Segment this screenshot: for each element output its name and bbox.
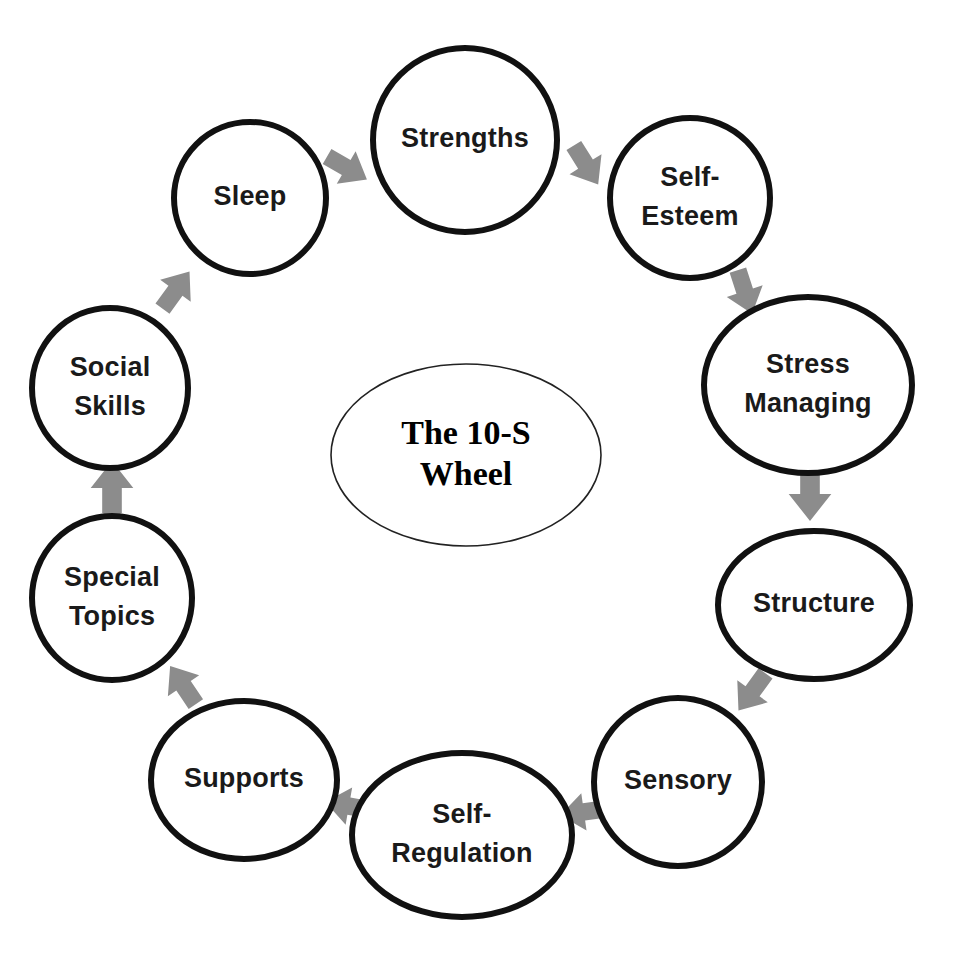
wheel-node-social-skills[interactable]: SocialSkills (32, 308, 188, 468)
node-label-strengths-line1: Strengths (401, 123, 529, 153)
wheel-node-self-esteem[interactable]: Self-Esteem (610, 118, 770, 278)
node-label-supports-line1: Supports (184, 763, 304, 793)
node-label-special-topics-line1: Special (64, 562, 160, 592)
node-shape-self-regulation (352, 753, 572, 917)
wheel-node-structure[interactable]: Structure (718, 531, 910, 679)
node-label-social-skills-line1: Social (70, 352, 151, 382)
node-label-stress-managing-line2: Managing (744, 388, 872, 418)
wheel-node-stress-managing[interactable]: StressManaging (704, 297, 912, 473)
node-shape-stress-managing (704, 297, 912, 473)
node-label-stress-managing-line1: Stress (766, 349, 850, 379)
hub-label-line1: The 10-S (401, 414, 530, 451)
wheel-node-self-regulation[interactable]: Self-Regulation (352, 753, 572, 917)
node-label-social-skills-line2: Skills (74, 391, 146, 421)
node-label-self-regulation-line2: Regulation (391, 838, 533, 868)
hub-center: The 10-S Wheel (331, 364, 601, 546)
wheel-node-special-topics[interactable]: SpecialTopics (32, 516, 192, 680)
node-label-self-esteem-line2: Esteem (641, 201, 738, 231)
node-label-structure-line1: Structure (753, 588, 875, 618)
hub-label-line2: Wheel (420, 455, 513, 492)
node-label-sleep-line1: Sleep (213, 181, 286, 211)
node-label-self-esteem-line1: Self- (660, 162, 720, 192)
node-label-self-regulation-line1: Self- (432, 799, 492, 829)
ten-s-wheel-diagram: StrengthsSelf-EsteemStressManagingStruct… (0, 0, 961, 953)
wheel-node-sleep[interactable]: Sleep (174, 122, 326, 274)
node-shape-special-topics (32, 516, 192, 680)
node-shape-social-skills (32, 308, 188, 468)
wheel-node-strengths[interactable]: Strengths (373, 48, 557, 232)
node-shape-self-esteem (610, 118, 770, 278)
node-label-special-topics-line2: Topics (69, 601, 155, 631)
wheel-node-sensory[interactable]: Sensory (594, 698, 762, 866)
node-label-sensory-line1: Sensory (624, 765, 732, 795)
wheel-node-supports[interactable]: Supports (151, 701, 337, 859)
